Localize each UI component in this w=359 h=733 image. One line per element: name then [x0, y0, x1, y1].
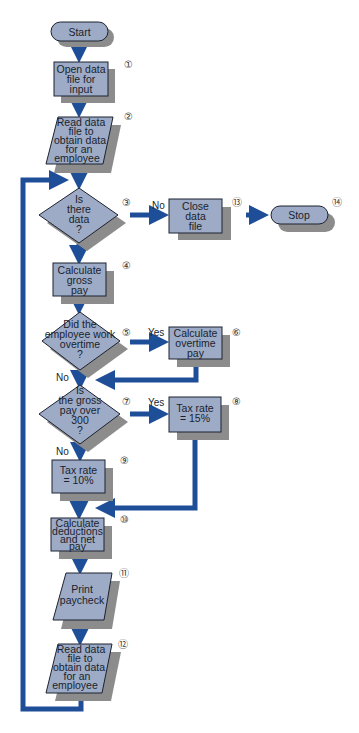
- node-is-gross-pay-over-300: Is the gross pay over 300 ? ⑦ Yes No: [39, 384, 164, 457]
- step-number: ②: [124, 111, 133, 122]
- node-stop-label: Stop: [288, 209, 310, 221]
- flowchart: Start Open data file for input ① Read da…: [0, 0, 359, 733]
- node-calculate-gross-pay: Calculate gross pay ④: [53, 260, 131, 304]
- edge-label-yes: Yes: [148, 327, 164, 338]
- svg-text:= 15%: = 15%: [180, 412, 210, 424]
- node-stop: Stop ⑭: [271, 197, 342, 232]
- step-number: ⑭: [332, 197, 342, 208]
- svg-text:?: ?: [77, 424, 83, 436]
- node-calculate-overtime-pay: Calculate overtime pay ⑥: [169, 327, 241, 367]
- return-n8-line: [104, 433, 195, 508]
- step-number: ⑥: [232, 327, 241, 338]
- step-number: ⑧: [232, 396, 241, 407]
- node-start: Start: [51, 22, 114, 47]
- svg-text:pay: pay: [71, 284, 89, 296]
- node-did-employee-work-overtime: Did the employee work overtime ? ⑤ Yes N…: [42, 312, 164, 383]
- edge-label-no: No: [56, 446, 69, 457]
- node-calculate-deductions: Calculate deductions and net pay ⑩: [51, 514, 129, 559]
- step-number: ⑨: [120, 455, 129, 466]
- step-number: ①: [124, 59, 133, 70]
- node-close-data-file: Close data file ⑬: [169, 197, 242, 240]
- svg-text:?: ?: [76, 223, 82, 235]
- node-open-data-file: Open data file for input ①: [54, 59, 133, 103]
- svg-text:pay: pay: [69, 540, 87, 552]
- node-start-label: Start: [68, 26, 90, 38]
- svg-text:file: file: [189, 220, 203, 232]
- node-print-paycheck: Print paycheck ⑪: [53, 568, 129, 629]
- svg-text:employee: employee: [54, 152, 100, 164]
- step-number: ⑬: [232, 197, 242, 208]
- svg-text:input: input: [70, 83, 93, 95]
- step-number: ⑪: [119, 568, 129, 579]
- step-number: ⑦: [122, 396, 131, 407]
- svg-text:paycheck: paycheck: [60, 594, 105, 606]
- step-number: ⑩: [120, 514, 129, 525]
- node-tax-rate-15: Tax rate = 15% ⑧: [169, 396, 241, 440]
- svg-text:?: ?: [77, 348, 83, 360]
- edge-label-no: No: [152, 200, 165, 211]
- step-number: ⑫: [118, 639, 128, 650]
- edge-label-yes: Yes: [148, 397, 164, 408]
- svg-text:= 10%: = 10%: [63, 474, 93, 486]
- svg-text:employee: employee: [52, 679, 98, 691]
- svg-text:pay: pay: [187, 347, 205, 359]
- step-number: ④: [122, 260, 131, 271]
- loop-back-line: [23, 180, 81, 709]
- step-number: ③: [122, 197, 131, 208]
- edge-label-no: No: [56, 372, 69, 383]
- node-read-data-2: Read data file to obtain data for an emp…: [46, 639, 128, 701]
- node-tax-rate-10: Tax rate = 10% ⑨: [52, 455, 129, 501]
- step-number: ⑤: [122, 327, 131, 338]
- node-is-there-data: Is there data ? ③ No: [39, 188, 165, 251]
- node-read-data-1: Read data file to obtain data for an emp…: [46, 111, 133, 173]
